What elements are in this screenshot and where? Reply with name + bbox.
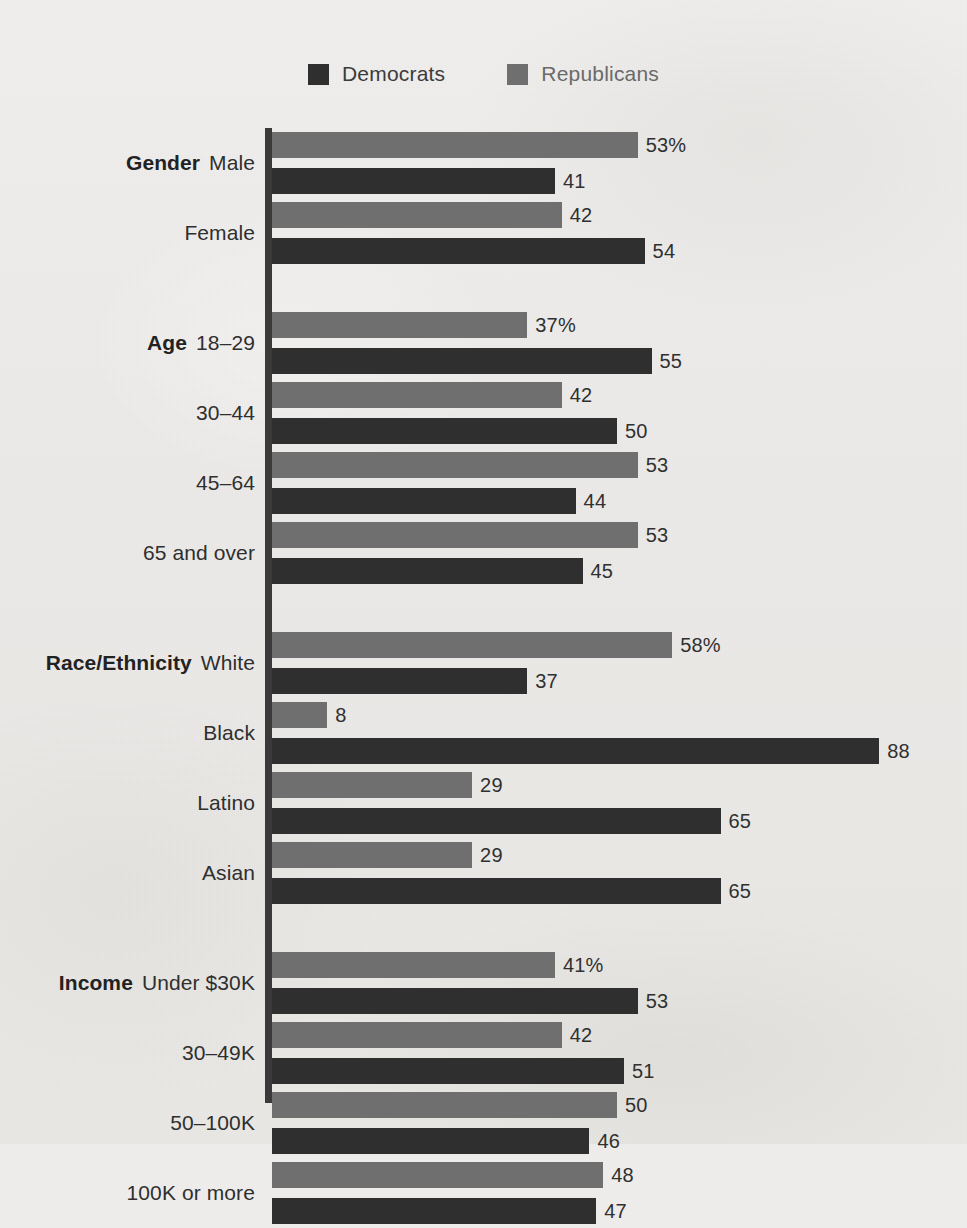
bar-republicans-30-49k[interactable] [272, 1022, 562, 1048]
bar-value-label: 54 [653, 240, 676, 263]
bar-democrats-65-and-over[interactable] [272, 558, 583, 584]
bar-value-label: 50 [625, 420, 648, 443]
row-bars: 2965 [272, 838, 967, 908]
bar-democrats-18-29[interactable] [272, 348, 652, 374]
bar-value-label: 41% [563, 954, 604, 977]
bar-republicans-50-100k[interactable] [272, 1092, 617, 1118]
bar-democrats-30-44[interactable] [272, 418, 617, 444]
bar-democrats-male[interactable] [272, 168, 555, 194]
row-bars: 4254 [272, 198, 967, 268]
bar-value-label: 44 [584, 490, 607, 513]
bar-line-rep: 37% [272, 312, 576, 338]
bar-democrats-black[interactable] [272, 738, 879, 764]
bar-line-rep: 50 [272, 1092, 648, 1118]
bar-line-dem: 51 [272, 1058, 655, 1084]
bar-democrats-under-30k[interactable] [272, 988, 638, 1014]
category-label: 30–44 [196, 401, 255, 424]
legend-item-democrats[interactable]: Democrats [308, 62, 445, 86]
row-label: Black [203, 721, 255, 745]
bar-value-label: 29 [480, 774, 503, 797]
bar-value-label: 53 [646, 990, 669, 1013]
chart-row: 100K or more4847 [0, 1158, 967, 1228]
chart-legend: DemocratsRepublicans [0, 62, 967, 86]
row-bars: 58%37 [272, 628, 967, 698]
bar-line-dem: 55 [272, 348, 682, 374]
bar-value-label: 42 [570, 204, 593, 227]
category-label: 50–100K [170, 1111, 255, 1134]
bar-republicans-30-44[interactable] [272, 382, 562, 408]
bar-line-dem: 46 [272, 1128, 620, 1154]
bar-republicans-male[interactable] [272, 132, 638, 158]
bar-democrats-white[interactable] [272, 668, 527, 694]
category-label: Asian [202, 861, 255, 884]
bar-republicans-45-64[interactable] [272, 452, 638, 478]
bar-democrats-50-100k[interactable] [272, 1128, 589, 1154]
bar-value-label: 51 [632, 1060, 655, 1083]
row-label: 100K or more [127, 1181, 255, 1205]
bar-democrats-45-64[interactable] [272, 488, 576, 514]
row-bars: 5345 [272, 518, 967, 588]
bar-value-label: 53% [646, 134, 687, 157]
row-label: Asian [202, 861, 255, 885]
bar-republicans-asian[interactable] [272, 842, 472, 868]
row-label: Age18–29 [147, 331, 255, 355]
bar-republicans-female[interactable] [272, 202, 562, 228]
row-label: 30–44 [196, 401, 255, 425]
bar-value-label: 47 [604, 1200, 627, 1223]
group-label: Income [59, 971, 133, 994]
vertical-axis-line [265, 128, 272, 1103]
bar-line-dem: 50 [272, 418, 648, 444]
row-label: 30–49K [182, 1041, 255, 1065]
row-label: IncomeUnder $30K [59, 971, 255, 995]
chart-row: 30–49K4251 [0, 1018, 967, 1088]
row-bars: 41%53 [272, 948, 967, 1018]
bar-line-dem: 53 [272, 988, 668, 1014]
row-bars: 37%55 [272, 308, 967, 378]
category-label: 18–29 [196, 331, 255, 354]
square-swatch-icon [507, 64, 528, 85]
bar-line-dem: 65 [272, 808, 751, 834]
category-label: Black [203, 721, 255, 744]
chart-row: 30–444250 [0, 378, 967, 448]
row-bars: 4251 [272, 1018, 967, 1088]
bar-value-label: 88 [887, 740, 910, 763]
row-label: Female [184, 221, 255, 245]
bar-republicans-latino[interactable] [272, 772, 472, 798]
bar-value-label: 45 [591, 560, 614, 583]
bar-republicans-black[interactable] [272, 702, 327, 728]
category-label: 100K or more [127, 1181, 255, 1204]
bar-democrats-30-49k[interactable] [272, 1058, 624, 1084]
row-label: Latino [197, 791, 255, 815]
group-label: Gender [126, 151, 200, 174]
bar-line-rep: 53 [272, 522, 668, 548]
bar-group-gender: GenderMale53%41Female4254 [0, 128, 967, 268]
row-bars: 4847 [272, 1158, 967, 1228]
category-label: White [201, 651, 255, 674]
bar-republicans-65-and-over[interactable] [272, 522, 638, 548]
bar-democrats-asian[interactable] [272, 878, 721, 904]
bar-value-label: 65 [729, 810, 752, 833]
bar-democrats-female[interactable] [272, 238, 645, 264]
row-bars: 888 [272, 698, 967, 768]
bar-line-rep: 53% [272, 132, 686, 158]
bar-value-label: 41 [563, 170, 586, 193]
bar-line-rep: 41% [272, 952, 604, 978]
chart-row: Latino2965 [0, 768, 967, 838]
bar-democrats-latino[interactable] [272, 808, 721, 834]
bar-republicans-18-29[interactable] [272, 312, 527, 338]
bar-republicans-100k-or-more[interactable] [272, 1162, 603, 1188]
bar-value-label: 55 [660, 350, 683, 373]
bar-value-label: 65 [729, 880, 752, 903]
bar-democrats-100k-or-more[interactable] [272, 1198, 596, 1224]
legend-item-republicans[interactable]: Republicans [507, 62, 659, 86]
bar-republicans-white[interactable] [272, 632, 672, 658]
bar-republicans-under-30k[interactable] [272, 952, 555, 978]
bar-value-label: 46 [597, 1130, 620, 1153]
chart-row: 45–645344 [0, 448, 967, 518]
bar-line-rep: 58% [272, 632, 721, 658]
category-label: 45–64 [196, 471, 255, 494]
row-bars: 4250 [272, 378, 967, 448]
bar-line-rep: 42 [272, 202, 592, 228]
row-label: 65 and over [143, 541, 255, 565]
